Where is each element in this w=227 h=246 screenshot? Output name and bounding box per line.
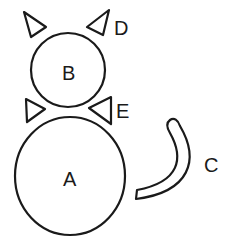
label-b: B [62,62,75,84]
left-bow-triangle [26,99,45,122]
label-a: A [63,168,77,190]
label-d: D [114,17,128,39]
cat-diagram: D B E A C [0,0,227,246]
tail-c [136,119,190,199]
left-ear-triangle [24,12,46,37]
label-e: E [116,100,129,122]
label-c: C [204,154,218,176]
right-ear-triangle [87,10,109,35]
bowtie-e [26,97,111,124]
right-bow-triangle [89,97,111,124]
